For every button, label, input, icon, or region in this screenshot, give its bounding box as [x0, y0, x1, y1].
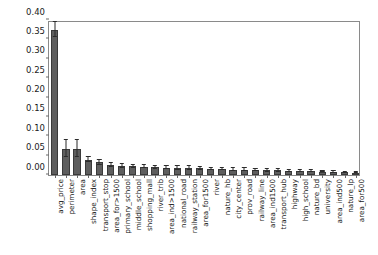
- error-bar-cap: [197, 166, 201, 167]
- x-tick-label: shopping_mall: [146, 179, 153, 231]
- error-bar-cap: [75, 156, 79, 157]
- error-bar-cap: [64, 139, 68, 140]
- x-tick-label: river: [213, 179, 220, 196]
- y-tick-label: 0.05: [26, 143, 45, 152]
- x-tick-label: nature_bd: [313, 179, 320, 215]
- error-bar-cap: [275, 171, 279, 172]
- error-bar-cap: [197, 169, 201, 170]
- error-bar-cap: [153, 165, 157, 166]
- x-tick-mark: [166, 175, 167, 178]
- x-tick-mark: [200, 175, 201, 178]
- error-bar-cap: [353, 172, 357, 173]
- y-tick-label: 0.20: [26, 85, 45, 94]
- x-tick-mark: [233, 175, 234, 178]
- error-bar-cap: [119, 163, 123, 164]
- x-tick-mark: [356, 175, 357, 178]
- x-tick-mark: [278, 175, 279, 178]
- x-tick-mark: [88, 175, 89, 178]
- x-tick-mark: [211, 175, 212, 178]
- error-bar-cap: [209, 169, 213, 170]
- error-bar-cap: [309, 171, 313, 172]
- x-tick-mark: [122, 175, 123, 178]
- error-bar-cap: [164, 168, 168, 169]
- x-tick-label: area_for1500: [202, 179, 209, 227]
- x-tick-label: primary_school: [124, 179, 131, 234]
- error-bar-cap: [97, 164, 101, 165]
- error-bar-cap: [142, 164, 146, 165]
- y-tick-label: 0.10: [26, 124, 45, 133]
- y-tick-label: 0.40: [26, 7, 45, 16]
- x-tick-label: area_for>1500: [113, 179, 120, 233]
- error-bar-cap: [119, 167, 123, 168]
- x-tick-label: national_road: [180, 179, 187, 228]
- x-tick-label: area_ind>1500: [168, 179, 175, 234]
- error-bar-cap: [97, 159, 101, 160]
- x-tick-label: transport_stop: [102, 179, 109, 231]
- x-tick-mark: [177, 175, 178, 178]
- y-tick-label: 0.30: [26, 46, 45, 55]
- x-tick-mark: [189, 175, 190, 178]
- error-bar-cap: [153, 168, 157, 169]
- x-tick-label: river_trib: [157, 179, 164, 212]
- error-bar-cap: [175, 165, 179, 166]
- error-bar: [54, 22, 55, 38]
- x-tick-mark: [300, 175, 301, 178]
- bar: [51, 30, 58, 175]
- error-bar-cap: [231, 170, 235, 171]
- plot-axes: 0.000.050.100.150.200.250.300.350.40 avg…: [48, 21, 360, 176]
- error-bar-cap: [287, 171, 291, 172]
- y-tick-mark: [46, 19, 49, 20]
- x-tick-label: shape_index: [90, 179, 97, 224]
- y-tick-label: 0.35: [26, 27, 45, 36]
- x-tick-mark: [244, 175, 245, 178]
- x-tick-label: middle_school: [135, 179, 142, 230]
- x-tick-mark: [311, 175, 312, 178]
- error-bar-cap: [220, 167, 224, 168]
- x-tick-label: railway_line: [258, 179, 265, 221]
- figure: 0.000.050.100.150.200.250.300.350.40 avg…: [0, 0, 378, 255]
- error-bar: [65, 140, 66, 157]
- error-bar-cap: [264, 171, 268, 172]
- error-bar-cap: [242, 167, 246, 168]
- x-tick-mark: [333, 175, 334, 178]
- error-bar-cap: [131, 164, 135, 165]
- error-bar-cap: [86, 161, 90, 162]
- x-tick-label: prov_road: [246, 179, 253, 215]
- error-bar-cap: [342, 172, 346, 173]
- error-bar-cap: [220, 169, 224, 170]
- error-bar-cap: [331, 172, 335, 173]
- x-tick-mark: [55, 175, 56, 178]
- error-bar-cap: [108, 162, 112, 163]
- x-tick-mark: [289, 175, 290, 178]
- x-tick-mark: [255, 175, 256, 178]
- error-bar-cap: [253, 168, 257, 169]
- x-tick-mark: [133, 175, 134, 178]
- error-bar-cap: [75, 139, 79, 140]
- x-tick-label: area: [79, 179, 86, 195]
- y-tick-label: 0.00: [26, 162, 45, 171]
- x-tick-label: area_ind1500: [269, 179, 276, 228]
- x-tick-label: avg_price: [57, 179, 64, 214]
- error-bar-cap: [53, 36, 57, 37]
- y-tick-label: 0.15: [26, 104, 45, 113]
- x-tick-mark: [77, 175, 78, 178]
- x-tick-label: nature_hb: [224, 179, 231, 215]
- x-tick-mark: [99, 175, 100, 178]
- error-bar-cap: [209, 167, 213, 168]
- error-bar-cap: [253, 170, 257, 171]
- x-tick-label: railway_station: [191, 179, 198, 233]
- x-tick-mark: [66, 175, 67, 178]
- x-tick-mark: [111, 175, 112, 178]
- error-bar-cap: [108, 166, 112, 167]
- error-bar-cap: [231, 167, 235, 168]
- x-tick-mark: [267, 175, 268, 178]
- error-bar-cap: [298, 171, 302, 172]
- error-bar-cap: [186, 165, 190, 166]
- error-bar-cap: [64, 156, 68, 157]
- x-tick-label: city_center: [235, 179, 242, 219]
- error-bar-cap: [242, 170, 246, 171]
- x-tick-mark: [144, 175, 145, 178]
- x-tick-mark: [322, 175, 323, 178]
- x-tick-mark: [222, 175, 223, 178]
- error-bar-cap: [142, 167, 146, 168]
